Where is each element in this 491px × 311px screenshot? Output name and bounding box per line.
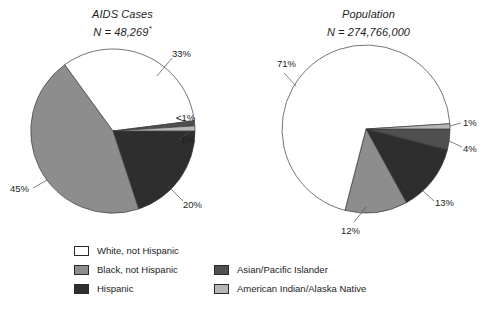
legend-label-hispanic: Hispanic [97,283,133,294]
pie-label-1: 1% [181,134,195,145]
leader-line-1 [450,123,461,126]
pie-panel-aids-cases: AIDS Cases N = 48,269* 33% <1% 1% 20% [0,0,245,240]
pie-label-13: 13% [435,197,455,208]
pie-label-4: 4% [463,143,477,154]
legend-label-asian-pacific-islander: Asian/Pacific Islander [237,264,328,275]
legend-item-black-not-hispanic: Black, not Hispanic [74,264,178,275]
legend-item-white-not-hispanic: White, not Hispanic [74,245,179,256]
legend-item-asian-pacific-islander: Asian/Pacific Islander [214,264,328,275]
pie-label-1: 1% [463,117,477,128]
pie-label-20: 20% [183,199,203,210]
legend-label-american-indian-alaska-native: American Indian/Alaska Native [237,283,366,294]
legend-swatch-asian-pacific-islander [214,265,229,275]
legend-swatch-american-indian-alaska-native [214,284,229,294]
pie-label-lt1: <1% [176,112,196,123]
legend-swatch-black-not-hispanic [74,265,89,275]
figure-root: AIDS Cases N = 48,269* 33% <1% 1% 20% [0,0,491,311]
pie-panel-population: Population N = 274,766,000 71% 1% 4% 1 [246,0,491,240]
legend-swatch-hispanic [74,284,89,294]
pie-label-45: 45% [10,183,30,194]
legend-item-hispanic: Hispanic [74,283,133,294]
leader-line-20 [168,186,183,201]
pie-svg-population: 71% 1% 4% 13% 12% [246,0,491,240]
legend-swatch-white-not-hispanic [74,246,89,256]
leader-line-4 [449,141,462,147]
leader-line-13 [422,190,434,201]
pie-label-12: 12% [341,225,361,236]
legend-item-american-indian-alaska-native: American Indian/Alaska Native [214,283,366,294]
legend-label-white-not-hispanic: White, not Hispanic [97,245,179,256]
chart-legend: White, not Hispanic Black, not Hispanic … [0,243,491,311]
pie-svg-aids-cases: 33% <1% 1% 20% 45% [0,0,245,240]
leader-line-71 [284,73,296,86]
leader-line-45 [33,180,47,188]
legend-label-black-not-hispanic: Black, not Hispanic [97,264,178,275]
pie-label-33: 33% [172,48,192,59]
pie-label-71: 71% [277,58,297,69]
